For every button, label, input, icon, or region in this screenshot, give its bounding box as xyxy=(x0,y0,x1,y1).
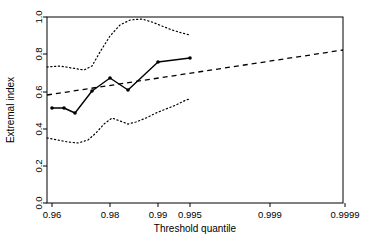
extremal-index-line xyxy=(52,58,190,113)
x-tick-label-2: 0.99 xyxy=(149,209,168,220)
extremal-index-plot: 0.960.980.990.9950.9990.9999 0.00.20.40.… xyxy=(0,0,366,252)
x-tick-label-3: 0.995 xyxy=(178,209,202,220)
data-point-0 xyxy=(50,106,54,110)
y-tick-label-0: 0.0 xyxy=(33,196,44,209)
y-axis-ticks xyxy=(43,17,47,203)
y-tick-label-2: 0.4 xyxy=(33,122,44,135)
x-tick-label-1: 0.98 xyxy=(101,209,120,220)
y-tick-label-5: 1.0 xyxy=(33,10,44,23)
y-tick-label-1: 0.2 xyxy=(33,159,44,172)
x-axis-tick-labels: 0.960.980.990.9950.9990.9999 xyxy=(43,209,360,220)
x-tick-label-5: 0.9999 xyxy=(330,209,359,220)
plot-frame xyxy=(47,17,343,203)
y-tick-label-4: 0.8 xyxy=(33,47,44,60)
data-point-5 xyxy=(126,88,130,92)
data-point-3 xyxy=(90,89,94,93)
lower-confidence-band xyxy=(47,99,190,143)
upper-confidence-band xyxy=(47,19,190,70)
chart-figure: 0.960.980.990.9950.9990.9999 0.00.20.40.… xyxy=(0,0,366,252)
x-tick-label-0: 0.96 xyxy=(43,209,62,220)
x-axis-ticks xyxy=(52,203,345,207)
data-point-6 xyxy=(156,60,160,64)
data-point-7 xyxy=(188,56,192,60)
x-tick-label-4: 0.999 xyxy=(258,209,282,220)
fitted-trend-line xyxy=(47,50,343,95)
x-axis-title: Threshold quantile xyxy=(154,223,237,234)
y-axis-title: Extremal index xyxy=(5,77,16,143)
y-tick-label-3: 0.6 xyxy=(33,85,44,98)
data-point-4 xyxy=(108,76,112,80)
data-point-1 xyxy=(62,106,66,110)
y-axis-tick-labels: 0.00.20.40.60.81.0 xyxy=(33,10,44,209)
data-point-2 xyxy=(73,111,77,115)
